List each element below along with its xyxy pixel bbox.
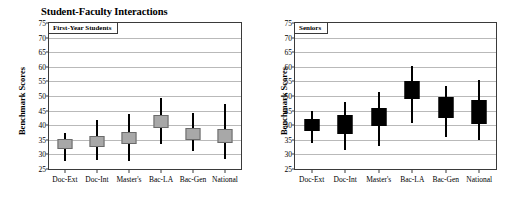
gridline (49, 38, 241, 39)
box-body (58, 139, 73, 148)
x-axis-tick-mark (193, 169, 194, 173)
box-body (371, 108, 386, 126)
y-axis-tick-label: 25 (39, 165, 47, 174)
y-axis-tick-mark (46, 110, 49, 111)
page-title: Student-Faculty Interactions (41, 6, 167, 17)
y-axis-tick-label: 60 (39, 62, 47, 71)
gridline (49, 81, 241, 82)
y-axis-tick-label: 55 (285, 77, 293, 86)
y-axis-tick-mark (46, 66, 49, 67)
x-axis-label-bac-gen: Bac-Gen (180, 175, 207, 184)
x-axis-tick-mark (412, 169, 413, 173)
y-axis-tick-mark (46, 96, 49, 97)
y-axis-tick-mark (46, 125, 49, 126)
box-body (90, 136, 105, 147)
gridline (295, 67, 496, 68)
y-axis-tick-label: 60 (285, 62, 293, 71)
x-axis-tick-mark (97, 169, 98, 173)
x-axis-label-national: National (466, 175, 492, 184)
y-axis-tick-mark (292, 169, 295, 170)
box-body (154, 115, 169, 128)
y-axis-tick-mark (46, 23, 49, 24)
box-body (122, 132, 137, 144)
y-axis-tick-label: 75 (285, 19, 293, 28)
x-axis-tick-mark (65, 169, 66, 173)
gridline (49, 67, 241, 68)
gridline (49, 96, 241, 97)
x-axis-tick-mark (378, 169, 379, 173)
box-body (186, 128, 201, 140)
y-axis-tick-mark (292, 110, 295, 111)
x-axis-label-doc-ext: Doc-Ext (52, 175, 77, 184)
y-axis-tick-mark (46, 37, 49, 38)
x-axis-label-bac-gen: Bac-Gen (432, 175, 459, 184)
x-axis-label-master-s: Master's (366, 175, 391, 184)
y-axis-tick-label: 50 (285, 92, 293, 101)
gridline (295, 154, 496, 155)
x-axis-tick-mark (345, 169, 346, 173)
y-axis-tick-mark (46, 81, 49, 82)
gridline (49, 52, 241, 53)
box-body (472, 100, 487, 124)
gridline (295, 52, 496, 53)
panel-seniors: Benchmark Scores Seniors 253035404550556… (254, 0, 509, 198)
y-axis-tick-mark (292, 23, 295, 24)
y-axis-tick-mark (292, 37, 295, 38)
x-axis-label-doc-int: Doc-Int (85, 175, 108, 184)
y-axis-tick-mark (46, 154, 49, 155)
y-axis-tick-mark (292, 81, 295, 82)
box-plot-figure: Student-Faculty Interactions Benchmark S… (0, 0, 509, 198)
box-body (338, 115, 353, 134)
y-axis-tick-label: 70 (285, 33, 293, 42)
panel-first-year-students: Student-Faculty Interactions Benchmark S… (0, 0, 254, 198)
plot-area-seniors: Seniors 2530354045505560657075Doc-ExtDoc… (294, 22, 497, 170)
y-axis-tick-label: 75 (39, 19, 47, 28)
y-axis-tick-label: 65 (39, 48, 47, 57)
box-body (304, 119, 319, 131)
gridline (49, 140, 241, 141)
y-axis-tick-mark (46, 139, 49, 140)
y-axis-tick-mark (46, 52, 49, 53)
y-axis-tick-label: 45 (285, 106, 293, 115)
x-axis-tick-mark (225, 169, 226, 173)
gridline (295, 140, 496, 141)
panel-label-seniors: Seniors (295, 23, 328, 34)
x-axis-label-bac-la: Bac-LA (400, 175, 424, 184)
y-axis-tick-label: 40 (285, 121, 293, 130)
box-body (218, 129, 233, 142)
gridline (295, 111, 496, 112)
y-axis-tick-label: 35 (285, 135, 293, 144)
y-axis-tick-mark (292, 154, 295, 155)
gridline (49, 111, 241, 112)
x-axis-tick-mark (311, 169, 312, 173)
x-axis-label-doc-ext: Doc-Ext (299, 175, 324, 184)
y-axis-tick-label: 45 (39, 106, 47, 115)
y-axis-tick-mark (292, 66, 295, 67)
x-axis-tick-mark (479, 169, 480, 173)
gridline (295, 125, 496, 126)
y-axis-tick-mark (46, 169, 49, 170)
y-axis-tick-label: 70 (39, 33, 47, 42)
x-axis-tick-mark (161, 169, 162, 173)
y-axis-tick-label: 65 (285, 48, 293, 57)
box-body (438, 97, 453, 117)
y-axis-tick-label: 25 (285, 165, 293, 174)
y-axis-tick-mark (292, 125, 295, 126)
x-axis-tick-mark (445, 169, 446, 173)
y-axis-tick-mark (292, 52, 295, 53)
y-axis-tick-label: 35 (39, 135, 47, 144)
y-axis-tick-mark (292, 139, 295, 140)
x-axis-label-doc-int: Doc-Int (334, 175, 357, 184)
panel-label-first-year: First-Year Students (49, 23, 118, 34)
gridline (295, 81, 496, 82)
gridline (295, 96, 496, 97)
y-axis-tick-label: 55 (39, 77, 47, 86)
gridline (49, 125, 241, 126)
x-axis-label-master-s: Master's (116, 175, 141, 184)
y-axis-title-left: Benchmark Scores (17, 41, 27, 161)
y-axis-tick-mark (292, 96, 295, 97)
plot-area-first-year: First-Year Students 25303540455055606570… (48, 22, 242, 170)
box-body (405, 81, 420, 99)
gridline (295, 38, 496, 39)
x-axis-label-bac-la: Bac-LA (149, 175, 173, 184)
